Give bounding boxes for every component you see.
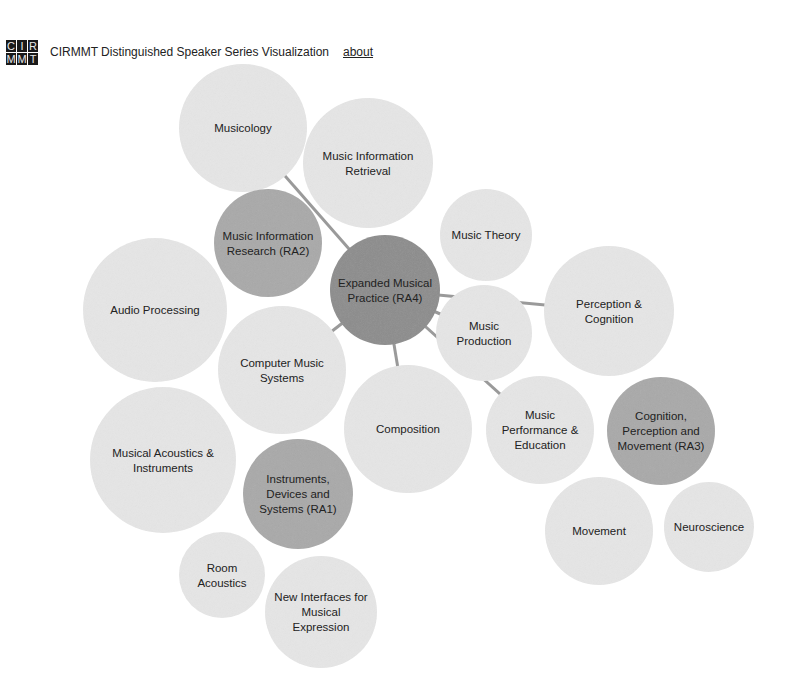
node-room-acoustics[interactable]: RoomAcoustics [179,532,265,618]
node-musicology[interactable]: Musicology [179,64,307,192]
node-label: Movement [572,525,626,537]
node-music-performance-education[interactable]: MusicPerformance &Education [486,376,594,484]
node-label: Education [514,439,565,451]
node-circle[interactable] [214,189,322,297]
node-label: Neuroscience [674,521,744,533]
node-circle[interactable] [436,285,532,381]
node-label: Acoustics [197,577,246,589]
node-ra4[interactable]: Expanded MusicalPractice (RA4) [330,235,440,345]
node-label: Computer Music [240,357,324,369]
node-label: Composition [376,423,440,435]
node-label: Music [469,320,499,332]
node-ra1[interactable]: Instruments,Devices andSystems (RA1) [243,439,353,549]
node-label: Musicology [214,122,272,134]
node-circle[interactable] [90,387,236,533]
node-label: Musical Acoustics & [112,447,214,459]
node-audio-processing[interactable]: Audio Processing [83,238,227,382]
node-label: Musical [302,606,341,618]
node-music-production[interactable]: MusicProduction [436,285,532,381]
node-label: Expanded Musical [338,277,432,289]
node-label: Music [525,409,555,421]
node-label: Systems [260,372,304,384]
node-label: Music Information [223,230,314,242]
node-label: Audio Processing [110,304,200,316]
node-music-theory[interactable]: Music Theory [440,189,532,281]
node-circle[interactable] [179,532,265,618]
node-label: Systems (RA1) [259,503,336,515]
node-neuroscience[interactable]: Neuroscience [664,482,754,572]
node-label: Room [207,562,238,574]
node-label: Devices and [266,488,329,500]
node-label: Perception & [576,298,642,310]
node-perception-cognition[interactable]: Perception &Cognition [544,246,674,376]
node-circle[interactable] [330,235,440,345]
node-label: Music Information [323,150,414,162]
node-label: New Interfaces for [274,591,367,603]
node-label: Music Theory [452,229,521,241]
node-circle[interactable] [544,246,674,376]
node-nime[interactable]: New Interfaces forMusicalExpression [265,556,377,668]
nodes-layer: MusicologyMusic InformationRetrievalMusi… [83,64,754,668]
node-label: Performance & [502,424,579,436]
node-label: Expression [293,621,350,633]
node-label: Practice (RA4) [348,292,423,304]
node-label: Cognition [585,313,634,325]
node-composition[interactable]: Composition [344,365,472,493]
node-label: Research (RA2) [227,245,310,257]
node-musical-acoustics[interactable]: Musical Acoustics &Instruments [90,387,236,533]
node-label: Movement (RA3) [618,440,705,452]
node-ra3[interactable]: Cognition,Perception andMovement (RA3) [607,377,715,485]
node-label: Retrieval [345,165,390,177]
node-label: Production [457,335,512,347]
node-label: Instruments [133,462,193,474]
node-computer-music-systems[interactable]: Computer MusicSystems [218,306,346,434]
node-ra2[interactable]: Music InformationResearch (RA2) [214,189,322,297]
node-circle[interactable] [218,306,346,434]
node-label: Perception and [622,425,699,437]
node-mir[interactable]: Music InformationRetrieval [303,98,433,228]
node-movement[interactable]: Movement [545,477,653,585]
bubble-visualization: MusicologyMusic InformationRetrievalMusi… [0,0,796,682]
node-circle[interactable] [303,98,433,228]
node-label: Instruments, [266,473,329,485]
node-label: Cognition, [635,410,687,422]
